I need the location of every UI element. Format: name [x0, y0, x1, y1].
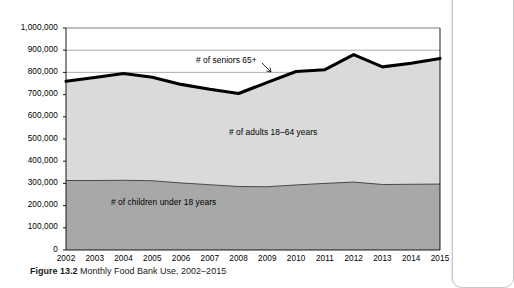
figure-caption: Figure 13.2 Monthly Food Bank Use, 2002–… — [30, 266, 450, 279]
x-axis-tick-label: 2011 — [309, 254, 341, 263]
y-axis-tick-label: 300,000 — [0, 178, 58, 187]
stacked-area-chart — [0, 0, 452, 262]
figure-container: 0100,000200,000300,000400,000500,000600,… — [0, 0, 452, 279]
x-axis-tick-label: 2006 — [165, 254, 197, 263]
y-axis-tick-label: 100,000 — [0, 222, 58, 231]
y-axis-tick-label: 900,000 — [0, 45, 58, 54]
y-axis-tick-label: 400,000 — [0, 156, 58, 165]
y-axis-tick-label: 700,000 — [0, 89, 58, 98]
x-axis-tick-label: 2009 — [251, 254, 283, 263]
y-axis-tick-label: 800,000 — [0, 67, 58, 76]
x-axis-tick-label: 2010 — [280, 254, 312, 263]
x-axis-tick-label: 2014 — [395, 254, 427, 263]
x-axis-tick-label: 2008 — [223, 254, 255, 263]
y-axis-tick-label: 200,000 — [0, 200, 58, 209]
caption-text: Monthly Food Bank Use, 2002–2015 — [80, 266, 226, 276]
x-axis-tick-label: 2013 — [366, 254, 398, 263]
chart-plot-area: 0100,000200,000300,000400,000500,000600,… — [0, 0, 452, 262]
x-axis-tick-label: 2007 — [194, 254, 226, 263]
x-axis-tick-label: 2003 — [79, 254, 111, 263]
x-axis-tick-label: 2015 — [424, 254, 456, 263]
caption-label: Figure 13.2 — [30, 266, 78, 276]
seniors-series-label: # of seniors 65+ — [196, 55, 257, 65]
y-axis-tick-label: 600,000 — [0, 111, 58, 120]
y-axis-tick-label: 0 — [0, 245, 58, 254]
x-axis-tick-label: 2004 — [108, 254, 140, 263]
x-axis-tick-label: 2012 — [338, 254, 370, 263]
page-edge-decoration — [452, 0, 514, 288]
y-axis-tick-label: 500,000 — [0, 134, 58, 143]
x-axis-tick-label: 2005 — [136, 254, 168, 263]
y-axis-tick-label: 1,000,000 — [0, 23, 58, 32]
x-axis-tick-label: 2002 — [50, 254, 82, 263]
children-series-label: # of children under 18 years — [111, 197, 216, 207]
adults-series-label: # of adults 18–64 years — [229, 127, 317, 137]
